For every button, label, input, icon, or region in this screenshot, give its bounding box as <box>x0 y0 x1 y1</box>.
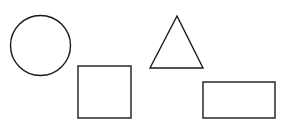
rectangle-shape <box>203 82 275 118</box>
shapes-canvas <box>0 0 281 133</box>
square-shape <box>78 66 131 118</box>
triangle-shape <box>150 16 203 68</box>
circle-shape <box>11 16 71 76</box>
